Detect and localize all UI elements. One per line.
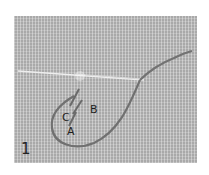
stitch [69,112,76,126]
stitch [73,100,82,114]
thread-tail [140,51,192,80]
label-a: A [67,126,75,137]
label-b: B [90,104,98,115]
embroidery-photo: C B A 1 [14,16,197,163]
label-c: C [62,112,70,123]
figure-number: 1 [21,142,31,157]
stitch-illustration [14,16,197,163]
